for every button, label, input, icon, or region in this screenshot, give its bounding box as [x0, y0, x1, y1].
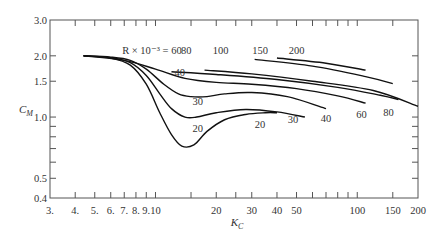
curve-label: 60 — [356, 109, 367, 120]
curve-label: 100 — [213, 45, 229, 56]
data-curves — [84, 56, 418, 147]
x-tick-label: 10 — [150, 205, 161, 216]
x-tick-label: 6. — [107, 205, 115, 216]
y-tick-label: 0.4 — [34, 193, 48, 204]
curve-label: 200 — [289, 45, 305, 56]
x-tick-label: 100 — [349, 205, 365, 216]
curve-label: 30 — [193, 96, 204, 107]
curve-label: 20 — [255, 119, 266, 130]
x-tick-label: 200 — [410, 205, 426, 216]
curve-label: 30 — [288, 114, 299, 125]
curve-label: 40 — [321, 113, 332, 124]
curve-label: 20 — [193, 123, 204, 134]
x-tick-label: 150 — [385, 205, 401, 216]
y-axis-title: CM — [19, 103, 34, 118]
chart: 3.4.5.6.7.8.9.10203040501001502000.40.51… — [0, 0, 446, 237]
curve-label: 80 — [383, 107, 394, 118]
x-tick-label: 30 — [247, 205, 258, 216]
series-curve — [277, 58, 366, 70]
curve-label: R × 10⁻³ = 60 — [122, 45, 182, 56]
y-tick-label: 3.0 — [34, 15, 47, 26]
y-tick-label: 1.5 — [34, 76, 47, 87]
series-curve — [84, 56, 305, 118]
axis-tick-labels: 3.4.5.6.7.8.9.10203040501001502000.40.51… — [34, 15, 426, 216]
x-tick-label: 9. — [142, 205, 150, 216]
curve-label: 150 — [252, 45, 268, 56]
x-tick-label: 4. — [71, 205, 79, 216]
curve-label: 40 — [175, 67, 186, 78]
x-tick-label: 40 — [272, 205, 283, 216]
x-axis-title: KC — [230, 216, 244, 231]
x-tick-label: 3. — [46, 205, 54, 216]
x-tick-label: 20 — [211, 205, 222, 216]
x-tick-label: 7. — [120, 205, 128, 216]
y-tick-label: 1.0 — [34, 112, 47, 123]
x-tick-label: 8. — [132, 205, 140, 216]
y-tick-label: 0.5 — [34, 173, 47, 184]
x-tick-label: 50 — [291, 205, 302, 216]
curve-label: 80 — [181, 45, 192, 56]
y-tick-label: 2.0 — [34, 51, 47, 62]
x-tick-label: 5. — [91, 205, 99, 216]
